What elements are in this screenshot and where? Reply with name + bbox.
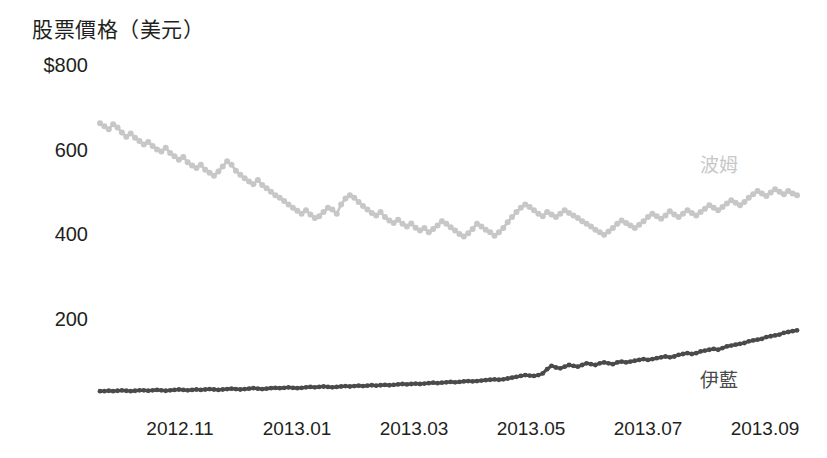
data-point	[238, 387, 243, 392]
data-point	[321, 209, 327, 215]
data-point	[659, 355, 664, 360]
data-point	[422, 381, 427, 386]
data-point	[106, 126, 112, 132]
data-point	[229, 386, 234, 391]
data-point	[312, 385, 317, 390]
data-point	[567, 363, 572, 368]
data-point	[746, 339, 751, 344]
data-point	[251, 386, 256, 391]
data-point	[470, 226, 476, 232]
data-point	[733, 342, 738, 347]
data-point	[396, 382, 401, 387]
data-point	[255, 386, 260, 391]
data-point	[150, 388, 155, 393]
data-point	[115, 388, 120, 393]
series-line	[100, 123, 797, 236]
data-point	[277, 386, 282, 391]
data-point	[606, 361, 611, 366]
series-ilan-points	[98, 328, 800, 394]
data-point	[694, 351, 699, 356]
data-point	[299, 385, 304, 390]
data-point	[124, 388, 129, 393]
data-point	[343, 384, 348, 389]
data-point	[431, 380, 436, 385]
data-point	[549, 363, 554, 368]
data-point	[575, 364, 580, 369]
data-point	[334, 211, 340, 217]
data-point	[98, 389, 103, 394]
data-point	[497, 377, 502, 382]
series-bom-points	[97, 120, 800, 239]
data-point	[233, 168, 239, 174]
data-point	[145, 139, 151, 145]
data-point	[338, 201, 344, 207]
data-point	[716, 347, 721, 352]
data-point	[470, 379, 475, 384]
data-point	[347, 384, 352, 389]
data-point	[628, 359, 633, 364]
data-point	[233, 387, 238, 392]
data-point	[378, 209, 384, 215]
data-point	[356, 199, 362, 205]
data-point	[790, 329, 795, 334]
data-point	[685, 351, 690, 356]
data-point	[667, 355, 672, 360]
data-point	[558, 366, 563, 371]
data-point	[365, 383, 370, 388]
data-point	[339, 384, 344, 389]
data-point	[352, 384, 357, 389]
data-point	[536, 373, 541, 378]
data-point	[580, 363, 585, 368]
data-point	[330, 385, 335, 390]
data-point	[650, 357, 655, 362]
data-point	[185, 388, 190, 393]
data-point	[513, 209, 519, 215]
data-point	[111, 389, 116, 394]
data-point	[707, 347, 712, 352]
data-point	[220, 387, 225, 392]
data-point	[571, 363, 576, 368]
data-point	[492, 377, 497, 382]
data-point	[589, 362, 594, 367]
data-point	[777, 332, 782, 337]
data-point	[172, 388, 177, 393]
data-point	[413, 381, 418, 386]
data-point	[317, 385, 322, 390]
data-point	[361, 384, 366, 389]
data-point	[133, 388, 138, 393]
data-point	[435, 381, 440, 386]
data-point	[461, 379, 466, 384]
data-point	[444, 380, 449, 385]
data-point	[475, 379, 480, 384]
data-point	[602, 360, 607, 365]
data-point	[751, 338, 756, 343]
data-point	[304, 385, 309, 390]
data-point	[316, 213, 322, 219]
data-point	[321, 384, 326, 389]
data-point	[523, 373, 528, 378]
data-point	[155, 388, 160, 393]
data-point	[198, 162, 204, 168]
data-point	[163, 388, 168, 393]
data-point	[540, 371, 545, 376]
data-point	[137, 388, 142, 393]
data-point	[466, 379, 471, 384]
data-point	[102, 389, 107, 394]
data-point	[545, 367, 550, 372]
data-point	[676, 352, 681, 357]
data-point	[672, 354, 677, 359]
data-point	[632, 358, 637, 363]
data-point	[615, 360, 620, 365]
data-point	[119, 130, 125, 136]
data-point	[453, 380, 458, 385]
data-point	[308, 385, 313, 390]
data-point	[554, 365, 559, 370]
data-point	[663, 354, 668, 359]
data-point	[562, 364, 567, 369]
data-point	[741, 199, 747, 205]
data-point	[146, 388, 151, 393]
data-point	[356, 383, 361, 388]
data-point	[610, 225, 616, 231]
data-point	[180, 154, 186, 160]
data-point	[225, 387, 230, 392]
